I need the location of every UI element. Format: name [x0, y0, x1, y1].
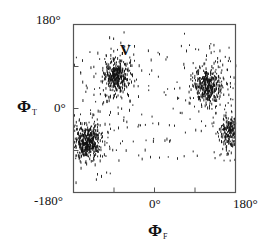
y-axis-symbol: Φ: [17, 97, 31, 116]
plot-frame: [74, 25, 236, 193]
x-axis-subscript: F: [163, 232, 167, 241]
y-axis-subscript: T: [32, 108, 37, 117]
data-points: [74, 31, 236, 184]
y-tick-label-bottom: -180°: [34, 194, 63, 207]
y-tick-label-zero: 0°: [54, 101, 66, 114]
cluster-annotation-v: V: [120, 42, 131, 59]
x-axis-symbol: Φ: [148, 221, 162, 240]
x-tick-label-right: 180°: [233, 197, 258, 210]
x-axis-label: ΦF: [148, 222, 168, 245]
x-tick-label-zero: 0°: [149, 197, 161, 210]
y-tick-label-top: 180°: [36, 13, 61, 26]
y-axis-label: ΦT: [17, 98, 37, 121]
